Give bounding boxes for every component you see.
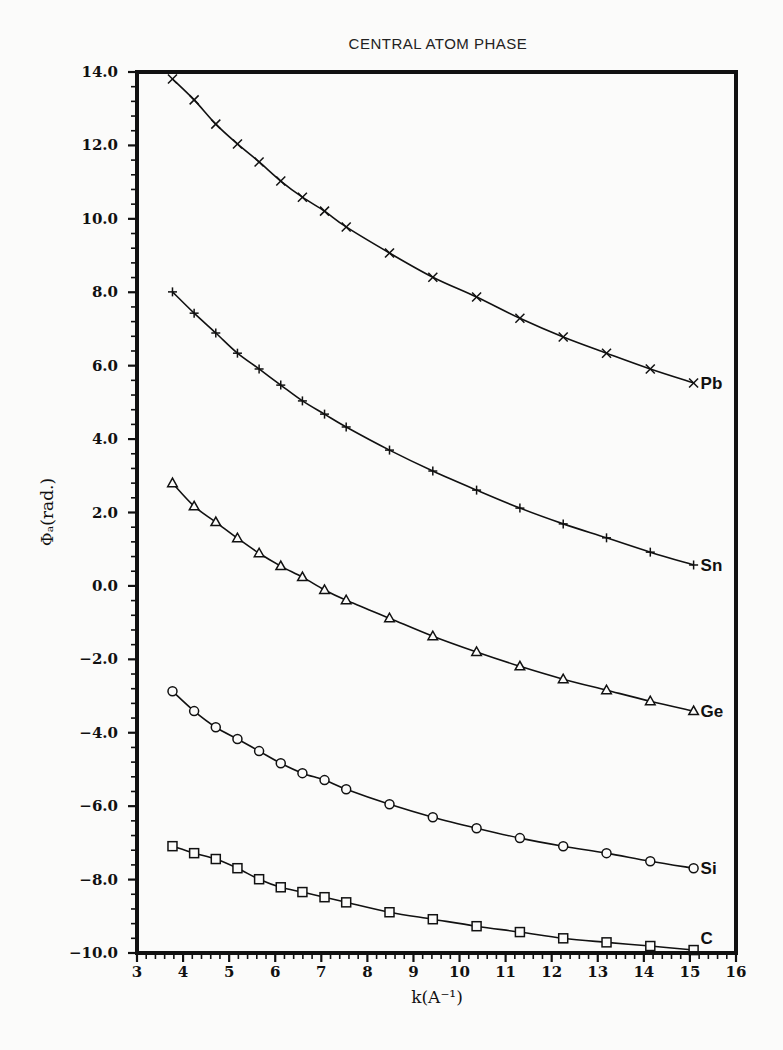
series-label-c: C xyxy=(701,929,713,948)
ge-marker-triangle-icon xyxy=(276,561,286,570)
series-label-ge: Ge xyxy=(701,702,724,721)
si-marker-circle-icon xyxy=(472,824,481,833)
series-label-pb: Pb xyxy=(701,374,723,393)
ge-marker-triangle-icon xyxy=(254,548,264,557)
x-tick-label: 4 xyxy=(178,963,188,981)
sn-marker-+-icon xyxy=(515,504,524,513)
pb-marker-x-icon xyxy=(342,222,351,231)
y-tick-label: −6.0 xyxy=(79,797,118,815)
x-tick-label: 9 xyxy=(408,963,418,981)
y-tick-label: 14.0 xyxy=(81,63,118,81)
x-axis-label: k(A⁻¹) xyxy=(411,987,463,1007)
sn-marker-+-icon xyxy=(320,410,329,419)
si-marker-circle-icon xyxy=(689,864,698,873)
axis-ticks xyxy=(128,72,736,962)
sn-marker-+-icon xyxy=(298,396,307,405)
x-tick-label: 15 xyxy=(679,963,700,981)
si-marker-circle-icon xyxy=(211,723,220,732)
y-tick-label: −10.0 xyxy=(69,944,118,962)
sn-marker-+-icon xyxy=(689,560,698,569)
pb-marker-x-icon xyxy=(646,364,655,373)
si-marker-circle-icon xyxy=(385,800,394,809)
ge-marker-triangle-icon xyxy=(233,533,243,542)
si-marker-circle-icon xyxy=(428,813,437,822)
y-tick-label: 10.0 xyxy=(81,210,118,228)
si-marker-circle-icon xyxy=(233,734,242,743)
curve-pb xyxy=(172,79,693,383)
c-marker-square-icon xyxy=(168,842,177,851)
pb-marker-x-icon xyxy=(472,293,481,302)
series-label-sn: Sn xyxy=(701,556,723,575)
si-marker-circle-icon xyxy=(276,759,285,768)
c-marker-square-icon xyxy=(472,922,481,931)
pb-marker-x-icon xyxy=(559,333,568,342)
y-tick-label: 6.0 xyxy=(92,357,118,375)
si-marker-circle-icon xyxy=(168,687,177,696)
ge-marker-triangle-icon xyxy=(168,478,178,487)
x-tick-label: 6 xyxy=(270,963,280,981)
pb-marker-x-icon xyxy=(190,95,199,104)
sn-marker-+-icon xyxy=(385,446,394,455)
y-tick-label: 0.0 xyxy=(92,577,118,595)
pb-marker-x-icon xyxy=(233,139,242,148)
curve-sn xyxy=(172,292,693,565)
curve-c xyxy=(172,846,693,950)
y-tick-label: 8.0 xyxy=(92,283,118,301)
phase-chart: CENTRAL ATOM PHASE 345678910111213141516… xyxy=(0,0,783,1050)
pb-marker-x-icon xyxy=(298,193,307,202)
c-marker-square-icon xyxy=(646,942,655,951)
sn-marker-+-icon xyxy=(559,519,568,528)
x-tick-label: 12 xyxy=(541,963,562,981)
x-tick-label: 16 xyxy=(726,963,747,981)
sn-marker-+-icon xyxy=(342,422,351,431)
pb-marker-x-icon xyxy=(515,314,524,323)
sn-marker-+-icon xyxy=(602,533,611,542)
curve-ge xyxy=(172,483,693,711)
si-marker-circle-icon xyxy=(515,834,524,843)
c-marker-square-icon xyxy=(342,898,351,907)
c-marker-square-icon xyxy=(320,893,329,902)
si-marker-circle-icon xyxy=(342,785,351,794)
y-axis-label: Φₐ(rad.) xyxy=(37,478,57,546)
ge-marker-triangle-icon xyxy=(211,517,221,526)
c-marker-square-icon xyxy=(515,928,524,937)
c-marker-square-icon xyxy=(385,908,394,917)
c-marker-square-icon xyxy=(428,915,437,924)
x-tick-label: 7 xyxy=(316,963,326,981)
chart-title: CENTRAL ATOM PHASE xyxy=(349,35,528,52)
c-marker-square-icon xyxy=(559,934,568,943)
x-tick-label: 5 xyxy=(224,963,234,981)
pb-marker-x-icon xyxy=(211,120,220,129)
si-marker-circle-icon xyxy=(190,707,199,716)
y-tick-label: 4.0 xyxy=(92,430,118,448)
curve-si xyxy=(172,691,693,868)
pb-marker-x-icon xyxy=(320,207,329,216)
x-tick-label: 10 xyxy=(449,963,470,981)
c-marker-square-icon xyxy=(211,855,220,864)
sn-marker-+-icon xyxy=(472,486,481,495)
pb-marker-x-icon xyxy=(689,378,698,387)
si-marker-circle-icon xyxy=(646,857,655,866)
si-marker-circle-icon xyxy=(559,842,568,851)
si-marker-circle-icon xyxy=(255,747,264,756)
x-tick-label: 14 xyxy=(633,963,654,981)
pb-marker-x-icon xyxy=(428,273,437,282)
c-marker-square-icon xyxy=(298,888,307,897)
pb-marker-x-icon xyxy=(602,349,611,358)
pb-marker-x-icon xyxy=(385,248,394,257)
pb-marker-x-icon xyxy=(168,74,177,83)
ge-marker-triangle-icon xyxy=(320,585,330,594)
c-marker-square-icon xyxy=(255,875,264,884)
series-label-si: Si xyxy=(701,859,717,878)
pb-marker-x-icon xyxy=(255,157,264,166)
ge-marker-triangle-icon xyxy=(298,572,308,581)
y-tick-label: 12.0 xyxy=(81,136,118,154)
si-marker-circle-icon xyxy=(298,769,307,778)
c-marker-square-icon xyxy=(190,849,199,858)
si-marker-circle-icon xyxy=(602,849,611,858)
y-tick-label: −4.0 xyxy=(79,724,118,742)
sn-marker-+-icon xyxy=(428,467,437,476)
y-tick-label: −8.0 xyxy=(79,871,118,889)
x-tick-label: 13 xyxy=(587,963,608,981)
c-marker-square-icon xyxy=(233,864,242,873)
